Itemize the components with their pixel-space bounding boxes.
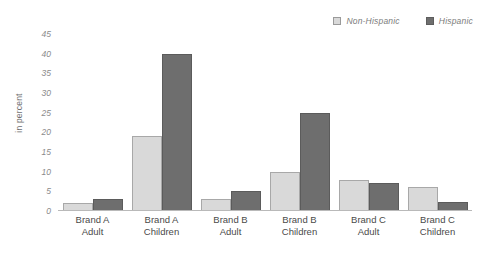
y-axis-title: in percent (14, 78, 24, 148)
bar-non-hispanic[interactable] (132, 136, 162, 211)
bar-group-brand-c-children (403, 34, 472, 211)
x-label-line1: Brand C (334, 214, 403, 226)
bar-hispanic[interactable] (162, 54, 192, 211)
x-label-line2: Adult (334, 226, 403, 238)
x-label-line1: Brand A (58, 214, 127, 226)
y-tick-10: 10 (42, 167, 51, 177)
x-label-line2: Adult (58, 226, 127, 238)
legend-label-hispanic: Hispanic (439, 16, 473, 26)
x-axis-baseline (58, 210, 472, 211)
bar-hispanic[interactable] (369, 183, 399, 211)
legend-swatch-icon-hispanic (426, 17, 434, 25)
bar-non-hispanic[interactable] (408, 187, 438, 211)
y-tick-5: 5 (46, 186, 51, 196)
legend-item-non-hispanic[interactable]: Non-Hispanic (333, 16, 399, 26)
plot-area: 45 40 35 30 25 20 15 10 5 0 (58, 34, 472, 211)
x-axis-labels: Brand A Adult Brand A Children Brand B A… (58, 214, 472, 238)
x-label-line2: Children (265, 226, 334, 238)
legend-label-non-hispanic: Non-Hispanic (346, 16, 399, 26)
chart-legend: Non-Hispanic Hispanic (333, 16, 473, 26)
x-label-line1: Brand B (196, 214, 265, 226)
y-tick-45: 45 (42, 29, 51, 39)
x-label-brand-c-children: Brand C Children (403, 214, 472, 238)
bar-group-brand-a-children (127, 34, 196, 211)
x-label-brand-a-adult: Brand A Adult (58, 214, 127, 238)
y-tick-25: 25 (42, 108, 51, 118)
y-tick-30: 30 (42, 88, 51, 98)
x-label-brand-b-adult: Brand B Adult (196, 214, 265, 238)
bar-hispanic[interactable] (231, 191, 261, 211)
x-label-line2: Children (127, 226, 196, 238)
bar-group-brand-c-adult (334, 34, 403, 211)
legend-item-hispanic[interactable]: Hispanic (426, 16, 473, 26)
bar-group-brand-a-adult (58, 34, 127, 211)
x-label-line2: Children (403, 226, 472, 238)
x-label-line1: Brand C (403, 214, 472, 226)
bar-group-brand-b-adult (196, 34, 265, 211)
x-label-line1: Brand B (265, 214, 334, 226)
x-label-brand-c-adult: Brand C Adult (334, 214, 403, 238)
x-label-brand-b-children: Brand B Children (265, 214, 334, 238)
y-tick-40: 40 (42, 49, 51, 59)
legend-swatch-icon-non-hispanic (333, 17, 341, 25)
y-tick-15: 15 (42, 147, 51, 157)
x-label-line1: Brand A (127, 214, 196, 226)
y-tick-20: 20 (42, 127, 51, 137)
bar-hispanic[interactable] (300, 113, 330, 211)
bar-groups (58, 34, 472, 211)
bar-group-brand-b-children (265, 34, 334, 211)
y-tick-35: 35 (42, 68, 51, 78)
x-label-line2: Adult (196, 226, 265, 238)
y-tick-0: 0 (46, 206, 51, 216)
bar-non-hispanic[interactable] (339, 180, 369, 211)
x-label-brand-a-children: Brand A Children (127, 214, 196, 238)
bar-non-hispanic[interactable] (270, 172, 300, 211)
bar-chart: Non-Hispanic Hispanic in percent 45 40 3… (0, 0, 481, 255)
